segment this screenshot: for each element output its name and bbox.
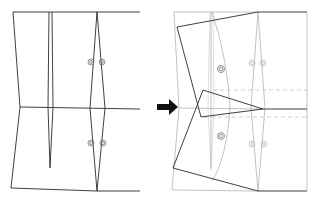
narrow-dart [48,12,53,168]
dashed-guides [204,90,307,117]
diamond-dart [90,12,105,191]
ghost-narrow-dart [208,12,214,170]
circle-marker-icon [100,140,106,146]
balance-marks-transformed [218,60,268,147]
transformed-block-panel [172,12,307,191]
circle-marker-icon [218,66,225,73]
ghost-diamond-dart [251,12,265,191]
pattern-diagram [0,0,313,206]
original-block-panel [11,12,140,191]
circle-marker-icon [260,60,266,66]
right-arrow-icon [157,99,178,115]
waist-line [20,107,140,109]
rotated-lower-section [173,90,263,191]
rotated-dart-curve [212,12,230,181]
right-block-outline [258,12,307,191]
ghost-original-outline [172,12,263,191]
rotated-upper-section [177,12,263,117]
original-outline [11,12,140,191]
circle-marker-icon [99,59,105,65]
circle-marker-icon [218,133,225,140]
